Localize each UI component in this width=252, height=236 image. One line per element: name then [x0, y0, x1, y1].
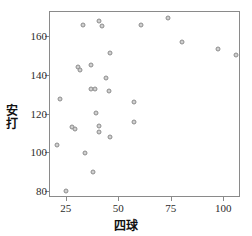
data-point — [104, 76, 109, 81]
y-tick-label: 100 — [7, 146, 47, 158]
y-tick-label: 80 — [7, 185, 47, 197]
data-point — [108, 134, 113, 139]
data-point — [55, 143, 60, 148]
x-tick-label: 50 — [98, 202, 138, 214]
data-point — [63, 189, 68, 194]
data-point — [107, 89, 112, 94]
data-point — [131, 100, 136, 105]
y-axis-label: 安打 — [4, 105, 20, 131]
chart-title — [0, 0, 252, 3]
data-point — [180, 40, 185, 45]
x-tick-label: 75 — [151, 202, 191, 214]
data-point — [100, 24, 105, 29]
x-tick-label: 100 — [203, 202, 243, 214]
data-point — [93, 110, 98, 115]
data-point — [80, 22, 85, 27]
x-axis-label: 四球 — [0, 216, 252, 233]
data-point — [132, 119, 137, 124]
data-point — [138, 23, 143, 28]
scatter-chart: 80100120140160 255075100 安打 四球 — [0, 0, 252, 236]
data-point — [73, 127, 78, 132]
y-tick-label: 140 — [7, 69, 47, 81]
data-point — [77, 67, 82, 72]
data-point — [93, 86, 98, 91]
data-point — [234, 53, 239, 58]
data-point — [215, 46, 220, 51]
y-tick-label: 160 — [7, 30, 47, 42]
data-point — [166, 15, 171, 20]
data-point — [57, 96, 62, 101]
x-tick-mark — [171, 197, 172, 201]
plot-area — [49, 11, 240, 197]
x-tick-mark — [223, 197, 224, 201]
data-point — [88, 63, 93, 68]
data-point — [107, 51, 112, 56]
x-tick-mark — [66, 197, 67, 201]
data-point — [82, 151, 87, 156]
x-tick-mark — [118, 197, 119, 201]
data-point — [96, 123, 101, 128]
data-point — [90, 170, 95, 175]
x-tick-label: 25 — [46, 202, 86, 214]
data-point — [97, 129, 102, 134]
